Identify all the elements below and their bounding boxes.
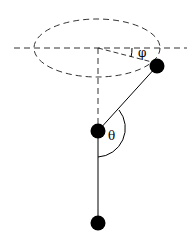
phi-label: φ <box>138 46 146 60</box>
middle-mass <box>91 124 106 139</box>
theta-label: θ <box>108 129 115 143</box>
upper-rod <box>98 66 157 131</box>
bottom-mass <box>91 216 106 231</box>
upper-mass <box>150 59 165 74</box>
phi-arc <box>131 48 132 57</box>
pendulum-diagram: φ θ <box>0 0 194 239</box>
